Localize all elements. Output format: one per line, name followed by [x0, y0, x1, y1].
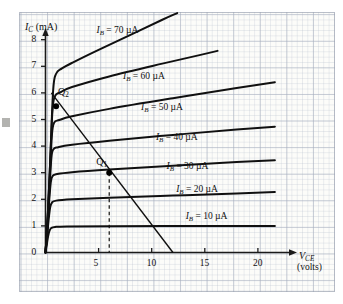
curve-label-value: = 70 µA	[104, 25, 138, 35]
y-axis-tick-label: 0	[32, 248, 37, 258]
operating-point-dot-q2	[53, 103, 59, 109]
operating-point-subscript: 1	[103, 160, 107, 168]
x-axis-unit: (volts)	[297, 263, 322, 273]
curve-ib-10	[46, 226, 275, 253]
y-axis-tick-label: 5	[32, 115, 37, 125]
x-axis-title: VCE	[299, 251, 314, 263]
curve-label-value: = 60 µA	[130, 71, 164, 81]
y-axis-unit: (mA)	[36, 21, 58, 32]
curve-label-10ua: IB = 10 µA	[186, 212, 228, 223]
curve-label-30ua: IB = 30 µA	[167, 162, 209, 173]
curve-label-70ua: IB = 70 µA	[96, 26, 138, 37]
operating-point-subscript: 2	[65, 91, 69, 99]
curve-ib-20	[46, 192, 275, 252]
y-axis-subscript: C	[28, 26, 33, 34]
y-axis-tick-label: 8	[32, 35, 37, 45]
curve-label-60ua: IB = 60 µA	[123, 72, 165, 83]
curve-label-40ua: IB = 40 µA	[156, 133, 198, 144]
operating-point-dot-q1	[106, 170, 112, 176]
figure-root: IC (mA) VCE (volts) 0123456785101520 IB …	[0, 0, 343, 304]
curve-label-value: = 10 µA	[193, 211, 227, 221]
x-axis-tick-label: 5	[94, 259, 99, 269]
curve-label-50ua: IB = 50 µA	[141, 103, 183, 114]
operating-point-label-q2: Q2	[58, 87, 69, 99]
curve-label-value: = 20 µA	[184, 184, 218, 194]
curve-label-value: = 30 µA	[174, 161, 208, 171]
x-axis-arrowhead	[289, 249, 297, 255]
y-axis-tick-label: 7	[32, 61, 37, 71]
y-axis-title: IC (mA)	[25, 22, 57, 34]
y-axis-tick-label: 1	[32, 221, 37, 231]
curve-label-value: = 40 µA	[163, 132, 197, 142]
operating-point-label-q1: Q1	[96, 157, 107, 169]
y-axis-tick-label: 2	[32, 194, 37, 204]
x-axis-tick-label: 10	[147, 259, 157, 269]
plot-svg	[0, 0, 343, 304]
x-axis-tick-label: 20	[253, 259, 263, 269]
curve-label-value: = 50 µA	[149, 102, 183, 112]
curve-ib-40	[46, 127, 275, 253]
x-axis-tick-label: 15	[200, 259, 210, 269]
curve-label-20ua: IB = 20 µA	[176, 185, 218, 196]
y-axis-tick-label: 4	[32, 141, 37, 151]
curve-ib-30	[46, 160, 275, 252]
y-axis-tick-label: 6	[32, 88, 37, 98]
y-axis-tick-label: 3	[32, 168, 37, 178]
